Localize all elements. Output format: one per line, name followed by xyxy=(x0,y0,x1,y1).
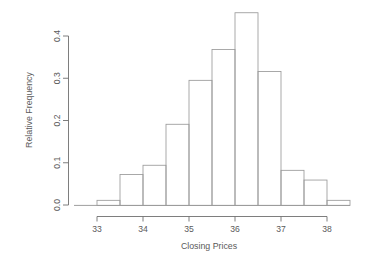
x-tick-label-34: 34 xyxy=(138,224,148,234)
x-tick-label-37: 37 xyxy=(276,224,286,234)
y-axis-title: Relative Frequency xyxy=(24,72,34,148)
y-tick-label-3: 0.3 xyxy=(52,72,62,84)
x-tick-label-35: 35 xyxy=(184,224,194,234)
histogram-figure: 0.0 0.1 0.2 0.3 0.4 Relative Frequency 3… xyxy=(0,0,371,264)
x-tick-label-36: 36 xyxy=(230,224,240,234)
y-tick-label-4: 0.4 xyxy=(52,30,62,42)
y-tick-label-2: 0.2 xyxy=(52,114,62,126)
x-axis-title: Closing Prices xyxy=(181,241,238,251)
x-tick-label-38: 38 xyxy=(322,224,332,234)
y-tick-label-0: 0.0 xyxy=(52,199,62,211)
y-tick-label-1: 0.1 xyxy=(52,157,62,169)
x-tick-label-33: 33 xyxy=(92,224,102,234)
